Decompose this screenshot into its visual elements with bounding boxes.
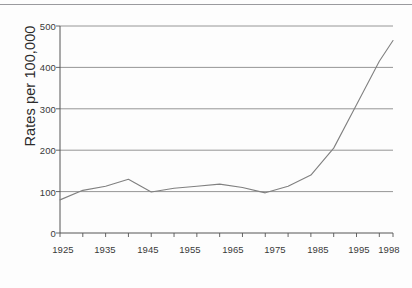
plot-canvas	[0, 0, 412, 288]
x-axis-ticks	[60, 233, 393, 237]
data-line-rate	[60, 40, 393, 199]
chart-figure: Rates per 100,000 500 400 300 200 100 0 …	[0, 0, 412, 288]
line-chart: Rates per 100,000 500 400 300 200 100 0 …	[0, 0, 412, 288]
y-axis-ticks	[56, 26, 60, 233]
gridlines	[60, 26, 393, 192]
